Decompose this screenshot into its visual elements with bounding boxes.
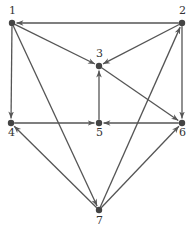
directed-graph: 1234567 [0, 0, 194, 231]
edge-7-to-2 [100, 27, 180, 207]
node-label-1: 1 [9, 4, 16, 17]
edge-1-to-4 [11, 26, 12, 118]
node-label-7: 7 [96, 214, 103, 227]
edge-1-to-7 [13, 26, 97, 206]
node-label-6: 6 [179, 126, 186, 139]
edge-2-to-3 [103, 24, 179, 63]
node-7 [96, 207, 102, 213]
node-label-4: 4 [8, 126, 15, 139]
node-label-5: 5 [96, 126, 103, 139]
node-label-2: 2 [179, 4, 186, 17]
edge-3-to-6 [102, 68, 179, 121]
edge-7-to-4 [14, 126, 97, 208]
node-3 [96, 63, 102, 69]
node-2 [179, 20, 185, 26]
edge-7-to-6 [101, 126, 179, 207]
labels-layer: 1234567 [8, 4, 186, 227]
edge-1-to-3 [15, 24, 95, 64]
node-1 [9, 20, 15, 26]
node-label-3: 3 [96, 47, 103, 60]
